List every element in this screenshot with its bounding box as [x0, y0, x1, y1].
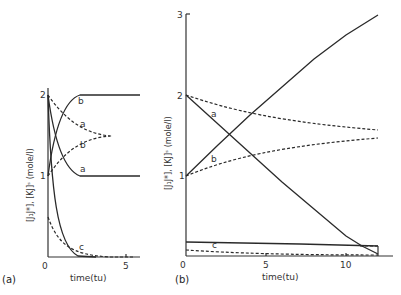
chart-b-ytick-3: 3: [177, 10, 183, 20]
chart-a-curve-b-solid: [48, 95, 140, 176]
chart-b-ytick-2: 2: [177, 91, 183, 101]
chart-b-xtick-10-label: 10: [340, 260, 352, 270]
chart-b-ytick-1: 1: [179, 171, 185, 181]
chart-b-y-axis-label: [J₁J*], [KJ]ˢ (mole/l): [164, 116, 173, 190]
panel-a-label: (a): [2, 274, 16, 285]
chart-a-ytick-1: 1: [40, 171, 46, 181]
chart-b-label-b: b: [211, 154, 217, 164]
chart-b-label-c: c: [212, 240, 217, 250]
chart-a-label-c: c: [79, 242, 84, 252]
chart-a-label-b-dashed: b: [80, 140, 86, 150]
chart-a-y-axis-label: [J₁J*], [KJ]ˢ (mole/l): [26, 148, 35, 222]
chart-a-label-a-dashed: a: [80, 119, 86, 129]
chart-b-curve-b-solid: [186, 15, 378, 176]
chart-b-curve-c-dashed: [186, 250, 378, 255]
chart-a: 2 1 0 5 b a b a c [J₁J*], [KJ]ˢ (mole/l)…: [2, 88, 140, 285]
chart-a-xtick-5-label: 5: [123, 261, 129, 271]
figure: 2 1 0 5 b a b a c [J₁J*], [KJ]ˢ (mole/l)…: [0, 0, 401, 295]
chart-b-x-axis-label: time(tu): [262, 272, 299, 282]
chart-a-label-b-solid: b: [78, 96, 84, 106]
chart-a-curve-a-solid: [48, 95, 140, 176]
chart-b-xtick-0: 0: [180, 260, 186, 270]
panel-b-label: (b): [175, 274, 189, 285]
chart-a-label-a-solid: a: [80, 164, 86, 174]
chart-a-xtick-0: 0: [42, 261, 48, 271]
chart-a-curve-c-dashed: [48, 217, 135, 257]
chart-b: 3 2 1 0 5 10 a b c [J₁J*], [KJ]ˢ (mole/l…: [164, 10, 393, 285]
chart-b-label-a: a: [211, 109, 217, 119]
chart-a-ytick-2: 2: [40, 90, 46, 100]
chart-a-x-axis-label: time(tu): [70, 273, 107, 283]
chart-b-xtick-5-label: 5: [263, 260, 269, 270]
